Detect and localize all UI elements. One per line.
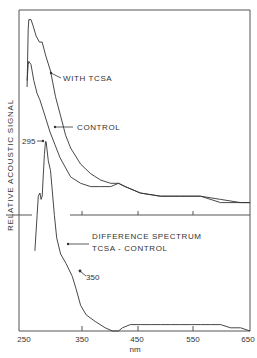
tcsa-control-label: TCSA - CONTROL [92, 244, 168, 253]
difference-arrowhead [67, 243, 69, 245]
with-tcsa-curve [27, 20, 250, 203]
point-350-label: 350 [86, 273, 100, 282]
x-tick-label-650: 650 [241, 335, 255, 344]
x-tick-label-550: 550 [186, 335, 200, 344]
x-tick-label-450: 450 [130, 335, 144, 344]
upper-panel-baseline [6, 211, 250, 215]
peak-295-label: 295 [22, 137, 36, 146]
x-axis-label: nm [129, 345, 140, 354]
control-arrowhead [54, 126, 56, 128]
with-tcsa-arrow [51, 73, 61, 78]
control-curve [27, 61, 250, 202]
peak-295-arrowhead [42, 140, 44, 142]
x-tick-label-250: 250 [17, 335, 31, 344]
chart: WITH TCSA CONTROL 295 DIFFERENCE SPECTRU… [0, 0, 257, 358]
y-axis-label: RELATIVE ACOUSTIC SIGNAL [6, 99, 15, 231]
control-label: CONTROL [77, 123, 120, 132]
difference-spectrum-label: DIFFERENCE SPECTRUM [92, 232, 202, 241]
x-ticks [82, 326, 193, 331]
x-tick-label-350: 350 [75, 335, 89, 344]
with-tcsa-arrowhead [50, 72, 52, 74]
with-tcsa-label: WITH TCSA [63, 74, 112, 83]
